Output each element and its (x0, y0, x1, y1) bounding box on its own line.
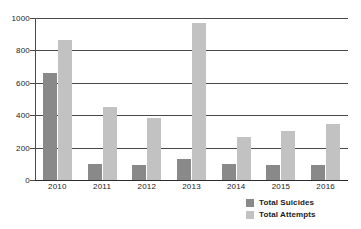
legend-item: Total Suicides (246, 198, 316, 207)
legend-label: Total Attempts (259, 210, 316, 219)
y-axis-tick-label: 0 (0, 176, 30, 185)
y-axis-tick-mark (30, 180, 35, 181)
x-axis-tick-label: 2014 (214, 182, 259, 196)
bar (281, 131, 295, 180)
legend-swatch-icon (246, 211, 254, 219)
bar (103, 107, 117, 180)
bar-group (169, 18, 214, 180)
y-axis-tick-label: 800 (0, 46, 30, 55)
bar-group (35, 18, 80, 180)
bar-group (214, 18, 259, 180)
bar-group (80, 18, 125, 180)
legend-label: Total Suicides (259, 198, 314, 207)
bar (177, 159, 191, 180)
y-axis-tick-label: 600 (0, 78, 30, 87)
bar (132, 165, 146, 180)
legend-item: Total Attempts (246, 210, 316, 219)
x-axis-tick-label: 2012 (124, 182, 169, 196)
y-axis-tick-label: 200 (0, 143, 30, 152)
bar (326, 124, 340, 180)
bar (192, 23, 206, 180)
bar (266, 165, 280, 180)
bar-groups (35, 18, 348, 180)
x-axis-tick-label: 2016 (303, 182, 348, 196)
bar (58, 40, 72, 180)
x-axis-tick-label: 2015 (259, 182, 304, 196)
bar (237, 137, 251, 180)
y-axis-tick-label: 400 (0, 111, 30, 120)
x-axis-baseline (35, 180, 348, 181)
bar-group (259, 18, 304, 180)
bar (147, 118, 161, 180)
chart-legend: Total SuicidesTotal Attempts (246, 198, 316, 219)
bar-group (303, 18, 348, 180)
x-axis-tick-label: 2011 (80, 182, 125, 196)
x-axis-tick-labels: 2010201120122013201420152016 (35, 182, 348, 196)
bar-chart: 02004006008001000 2010201120122013201420… (0, 0, 361, 229)
x-axis-tick-label: 2013 (169, 182, 214, 196)
bar (311, 165, 325, 180)
y-axis-tick-label: 1000 (0, 14, 30, 23)
bar (43, 73, 57, 180)
legend-swatch-icon (246, 199, 254, 207)
bar (222, 164, 236, 180)
bar-group (124, 18, 169, 180)
x-axis-tick-label: 2010 (35, 182, 80, 196)
bar (88, 164, 102, 180)
